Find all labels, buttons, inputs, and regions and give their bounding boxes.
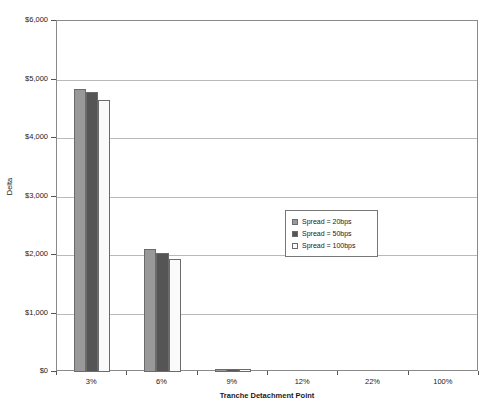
x-axis-tick-label: 3%: [56, 377, 126, 386]
x-axis-tick-label: 9%: [197, 377, 267, 386]
plot-area: [56, 20, 478, 371]
gridline: [57, 197, 477, 198]
gridline: [57, 80, 477, 81]
bar: [169, 259, 181, 372]
legend-item-label: Spread = 20bps: [302, 218, 352, 225]
x-axis-tick-mark: [126, 371, 127, 375]
x-axis-tick-mark: [197, 371, 198, 375]
y-axis-tick-label: $6,000: [0, 16, 48, 24]
y-axis-tick-mark: [51, 313, 56, 314]
legend-item-label: Spread = 100bps: [302, 242, 356, 249]
gridline: [57, 138, 477, 139]
x-axis-tick-label: 6%: [126, 377, 196, 386]
x-axis-tick-label: 12%: [267, 377, 337, 386]
y-axis-tick-mark: [51, 196, 56, 197]
legend-item: Spread = 50bps: [292, 228, 371, 239]
y-axis-title: Delta: [5, 167, 14, 207]
gridline: [57, 255, 477, 256]
legend-item: Spread = 100bps: [292, 240, 371, 251]
x-axis-tick-label: 100%: [408, 377, 478, 386]
y-axis-tick-label: $4,000: [0, 133, 48, 141]
bar: [74, 89, 86, 372]
x-axis-tick-mark: [478, 371, 479, 375]
y-axis-tick-label: $1,000: [0, 309, 48, 317]
x-axis-tick-label: 22%: [337, 377, 407, 386]
legend-swatch-icon: [292, 243, 298, 249]
bar: [215, 369, 227, 372]
bar: [156, 253, 168, 372]
y-axis-tick-label: $5,000: [0, 75, 48, 83]
y-axis-tick-mark: [51, 254, 56, 255]
x-axis-title: Tranche Detachment Point: [56, 391, 478, 400]
y-axis-tick-mark: [51, 137, 56, 138]
y-axis-tick-label: $2,000: [0, 250, 48, 258]
gridline: [57, 314, 477, 315]
legend-item: Spread = 20bps: [292, 216, 371, 227]
x-axis-tick-mark: [267, 371, 268, 375]
bar: [227, 369, 239, 372]
x-axis-tick-mark: [337, 371, 338, 375]
bar-chart: Delta of Equity Tranche with respect to …: [0, 0, 491, 410]
bar: [144, 249, 156, 372]
y-axis-tick-mark: [51, 20, 56, 21]
legend-item-label: Spread = 50bps: [302, 230, 352, 237]
bar: [86, 92, 98, 372]
x-axis-tick-mark: [408, 371, 409, 375]
x-axis-tick-mark: [56, 371, 57, 375]
legend: Spread = 20bpsSpread = 50bpsSpread = 100…: [285, 210, 378, 257]
legend-swatch-icon: [292, 219, 298, 225]
legend-swatch-icon: [292, 231, 298, 237]
y-axis-tick-label: $0: [0, 367, 48, 375]
bar: [239, 369, 251, 372]
y-axis-tick-mark: [51, 79, 56, 80]
bar: [98, 100, 110, 372]
